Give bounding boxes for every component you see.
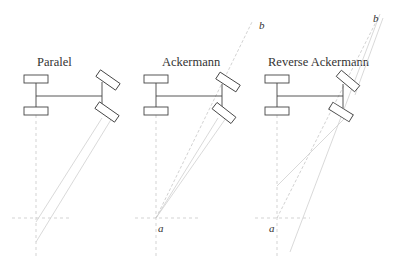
rear-left-wheel [265,75,289,83]
point-b-label: b [373,12,379,24]
rear-right-wheel [144,107,168,115]
front-wheel-normal-line [290,14,380,252]
front-wheel-normal-line [36,118,102,222]
panel-title-parallel: Paralel [37,55,72,69]
rear-right-wheel [265,107,289,115]
panel-title-ackermann: Ackermann [162,55,221,69]
steering-geometry-figure: Paralel Ackermann a b Rever [0,0,401,259]
front-left-wheel [336,70,360,92]
rear-left-wheel [144,75,168,83]
front-wheel-normal-line [36,118,112,242]
line-ab [156,22,252,218]
line-ab [277,18,378,218]
panel-reverse-ackermann: Reverse Ackermann a b [255,12,383,256]
front-left-wheel [216,72,240,92]
front-left-wheel [96,70,120,90]
panel-title-reverse-ackermann: Reverse Ackermann [268,55,370,69]
front-wheel-normal-line [156,118,218,218]
panel-parallel: Paralel [12,55,120,256]
front-right-wheel [95,102,119,122]
panel-ackermann: Ackermann a b [135,19,265,256]
point-b-label: b [259,19,265,31]
front-right-wheel [329,102,354,122]
front-wheel-normal-line [277,118,345,186]
front-wheel-normal-line [156,118,226,218]
rear-right-wheel [24,107,48,115]
rear-left-wheel [24,75,48,83]
point-a-label: a [158,222,164,234]
point-a-label: a [269,222,275,234]
